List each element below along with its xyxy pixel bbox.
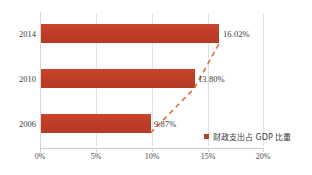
data-label-2010: 13.80% [198,74,225,84]
legend[interactable]: 财政支出占 GDP 比重 [204,131,291,142]
chart-container: 2014 2010 2006 16.02% 13.80% 9.87% 0% 5%… [0,0,312,175]
xtick-label-0: 0% [25,152,55,161]
xtick-label-5: 5% [81,152,111,161]
legend-square-marker-icon [204,134,209,139]
bar-2010[interactable] [40,69,195,88]
legend-label: 财政支出占 GDP 比重 [213,131,291,142]
bar-2014[interactable] [40,24,219,43]
xtick-label-20: 20% [248,152,278,161]
bar-2006[interactable] [40,114,151,133]
data-label-2006: 9.87% [154,119,176,129]
category-label-2010: 2010 [4,74,36,84]
category-label-2014: 2014 [4,29,36,39]
xtick-label-15: 15% [193,152,223,161]
y-axis-line [40,12,41,148]
xtick-label-10: 10% [137,152,167,161]
category-label-2006: 2006 [4,119,36,129]
gridline-20 [263,14,264,146]
data-label-2014: 16.02% [223,29,250,39]
